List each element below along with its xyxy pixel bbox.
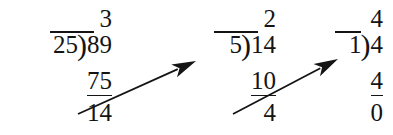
quotient-1: 3 bbox=[100, 6, 113, 32]
dividend-2: 14 bbox=[251, 31, 276, 58]
division-bracket-icon-1: ) bbox=[77, 32, 87, 58]
subtrahend-row-1: 75 bbox=[87, 68, 112, 94]
division-problem-2: 2 5)14 10 4 bbox=[168, 0, 288, 135]
dividend-row-2: 5)14 bbox=[230, 32, 277, 58]
dividend-3: 4 bbox=[371, 31, 384, 58]
division-bracket-icon-2: ) bbox=[241, 32, 251, 58]
subtrahend-1: 75 bbox=[87, 68, 112, 96]
remainder-1: 14 bbox=[87, 100, 112, 126]
division-problem-1: 3 25)89 75 14 bbox=[4, 0, 124, 135]
subtrahend-row-2: 10 bbox=[251, 68, 276, 94]
subtrahend-2: 10 bbox=[251, 68, 276, 96]
subtrahend-row-3: 4 bbox=[371, 68, 384, 94]
subtrahend-3: 4 bbox=[371, 68, 384, 96]
dividend-row-3: 1)4 bbox=[349, 32, 383, 58]
dividend-1: 89 bbox=[87, 31, 112, 58]
divisor-1: 25 bbox=[53, 31, 78, 58]
long-division-figure: 3 25)89 75 14 2 5)14 10 4 4 1)4 4 0 bbox=[0, 0, 393, 135]
division-bracket-icon-3: ) bbox=[361, 32, 371, 58]
dividend-row-1: 25)89 bbox=[53, 32, 112, 58]
division-problem-3: 4 1)4 4 0 bbox=[275, 0, 393, 135]
remainder-3: 0 bbox=[371, 100, 384, 126]
quotient-3: 4 bbox=[371, 6, 384, 32]
